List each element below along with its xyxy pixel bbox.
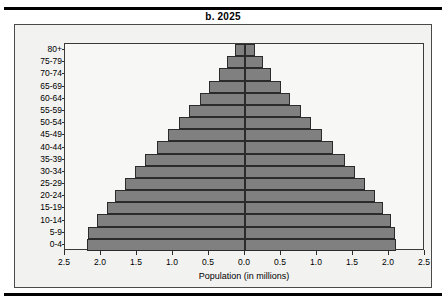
y-axis-tick-label: 20-24: [40, 190, 62, 200]
bar-female: [245, 202, 383, 214]
y-axis-tick-label: 65-69: [40, 81, 62, 91]
bar-male: [97, 214, 245, 226]
x-axis-tick-label: 1.0: [310, 257, 322, 267]
x-axis-title: Population (in millions): [64, 271, 424, 281]
x-axis-tick: [388, 250, 389, 255]
x-axis-ticks: [64, 250, 424, 256]
pyramid-row: [65, 141, 423, 153]
bar-female: [245, 227, 395, 239]
bar-female: [245, 141, 333, 153]
bar-male: [145, 154, 245, 166]
pyramid-row: [65, 93, 423, 105]
x-axis-tick-label: 2.0: [382, 257, 394, 267]
pyramid-row: [65, 44, 423, 56]
pyramid-row: [65, 105, 423, 117]
x-axis-tick: [244, 250, 245, 255]
plot-area: [64, 43, 424, 250]
bar-female: [245, 178, 365, 190]
x-axis-tick: [64, 250, 65, 255]
x-axis-tick-label: 0.5: [202, 257, 214, 267]
bar-female: [245, 154, 345, 166]
bar-female: [245, 44, 255, 56]
y-axis-tick-label: 40-44: [40, 142, 62, 152]
x-axis-tick-labels: 2.52.01.51.00.50.00.51.01.52.02.5: [64, 257, 424, 269]
bar-male: [235, 44, 245, 56]
bar-male: [157, 141, 245, 153]
bar-male: [168, 129, 245, 141]
page-title: b. 2025: [0, 11, 446, 22]
bar-female: [245, 93, 290, 105]
y-axis-tick-label: 70-74: [40, 68, 62, 78]
x-axis-tick: [280, 250, 281, 255]
pyramid-row: [65, 227, 423, 239]
y-axis-tick-label: 45-49: [40, 129, 62, 139]
pyramid-row: [65, 166, 423, 178]
pyramid-row: [65, 214, 423, 226]
pyramid-row: [65, 154, 423, 166]
bar-female: [245, 129, 322, 141]
x-axis-tick-label: 2.5: [58, 257, 70, 267]
pyramid-row: [65, 81, 423, 93]
y-axis-tick-label: 5-9: [50, 227, 62, 237]
bar-male: [219, 68, 245, 80]
bar-female: [245, 105, 301, 117]
pyramid-row: [65, 202, 423, 214]
x-axis-tick-label: 1.5: [130, 257, 142, 267]
x-axis-tick-label: 2.0: [94, 257, 106, 267]
bar-female: [245, 68, 271, 80]
bar-male: [115, 190, 245, 202]
y-axis-labels: 80+75-7970-7465-6960-6455-5950-5445-4940…: [18, 43, 62, 250]
pyramid-row: [65, 129, 423, 141]
x-axis-tick: [100, 250, 101, 255]
x-axis-tick: [316, 250, 317, 255]
y-axis-tick-label: 25-29: [40, 178, 62, 188]
x-axis-tick: [172, 250, 173, 255]
x-axis-tick: [208, 250, 209, 255]
y-axis-tick-label: 35-39: [40, 154, 62, 164]
y-axis-tick-label: 55-59: [40, 105, 62, 115]
x-axis-tick-label: 1.5: [346, 257, 358, 267]
bar-female: [245, 190, 375, 202]
x-axis-tick: [424, 250, 425, 255]
x-axis-tick-label: 0.5: [274, 257, 286, 267]
bar-male: [227, 56, 245, 68]
bar-male: [200, 93, 245, 105]
x-axis-tick-label: 2.5: [418, 257, 430, 267]
x-axis-tick: [136, 250, 137, 255]
y-axis-tick-label: 60-64: [40, 93, 62, 103]
bar-female: [245, 56, 263, 68]
x-axis-tick-label: 0.0: [238, 257, 250, 267]
bar-male: [135, 166, 245, 178]
bottom-rule: [4, 293, 442, 296]
bar-female: [245, 81, 281, 93]
bar-male: [179, 117, 245, 129]
figure-root: b. 2025 Male Female 80+75-7970-7465-6960…: [0, 0, 446, 303]
x-axis-tick: [352, 250, 353, 255]
pyramid-row: [65, 178, 423, 190]
bar-male: [189, 105, 245, 117]
top-rule: [4, 7, 442, 10]
pyramid-row: [65, 68, 423, 80]
x-axis-tick-label: 1.0: [166, 257, 178, 267]
bar-male: [125, 178, 245, 190]
bar-male: [209, 81, 245, 93]
y-axis-tick-label: 50-54: [40, 117, 62, 127]
bar-female: [245, 117, 311, 129]
pyramid-row: [65, 117, 423, 129]
bars-layer: [65, 44, 423, 249]
y-axis-tick-label: 75-79: [40, 56, 62, 66]
bar-male: [88, 227, 245, 239]
zero-axis-line: [245, 44, 246, 249]
bar-female: [245, 214, 391, 226]
y-axis-tick-label: 10-14: [40, 215, 62, 225]
y-axis-tick-label: 30-34: [40, 166, 62, 176]
pyramid-row: [65, 56, 423, 68]
y-axis-tick-label: 15-19: [40, 202, 62, 212]
y-axis-tick-label: 80+: [48, 44, 62, 54]
pyramid-row: [65, 190, 423, 202]
bar-female: [245, 166, 355, 178]
y-axis-tick-label: 0-4: [50, 239, 62, 249]
bar-male: [107, 202, 245, 214]
